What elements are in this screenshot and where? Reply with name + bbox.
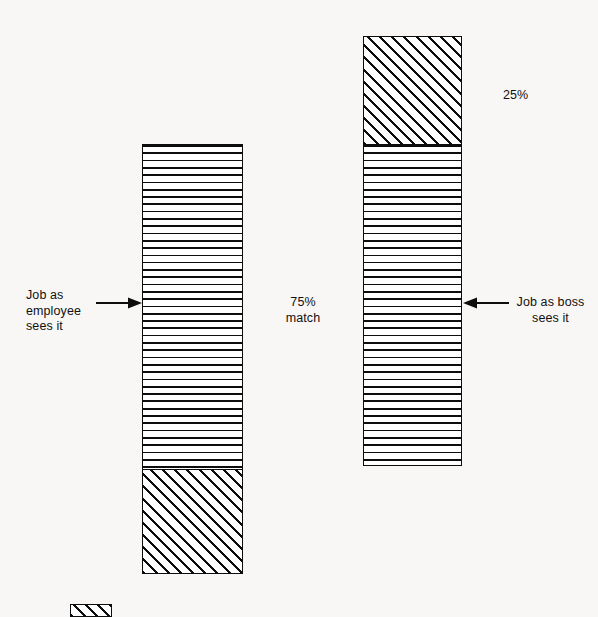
label-mismatch-percentage: 25% [503,88,553,104]
bar-boss-mismatch-segment [364,37,461,144]
label-boss: Job as boss sees it [508,295,593,326]
label-match-percentage: 75% match [268,295,338,326]
bar-employee-match-segment [143,145,242,469]
label-employee: Job as employee sees it [26,288,98,335]
bar-boss-match-segment [364,144,461,465]
bar-employee-mismatch-segment [143,469,242,573]
bar-boss [363,36,462,466]
legend-swatch-mismatch [70,604,112,617]
bar-employee [142,144,243,574]
arrow-to-boss-bar [463,296,509,310]
arrow-to-employee-bar [96,296,144,310]
